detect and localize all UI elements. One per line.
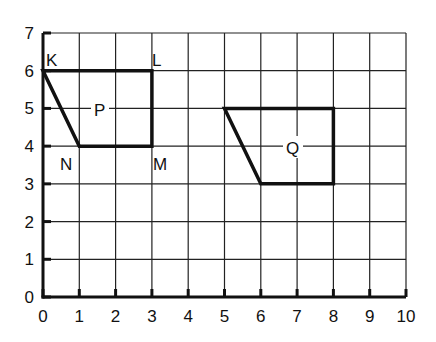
grid-lines xyxy=(43,33,406,297)
x-tick-label: 2 xyxy=(111,307,120,326)
y-tick-label: 2 xyxy=(25,213,34,232)
x-tick-label: 0 xyxy=(38,307,47,326)
vertex-label-m: M xyxy=(153,155,167,174)
shape-label-q: Q xyxy=(286,139,299,158)
x-tick-label: 4 xyxy=(183,307,192,326)
x-tick-label: 1 xyxy=(75,307,84,326)
vertex-label-k: K xyxy=(46,51,58,70)
vertex-label-l: L xyxy=(152,51,161,70)
coordinate-grid-diagram: 012345678910 01234567 K L M N P Q xyxy=(0,0,436,342)
x-tick-label: 6 xyxy=(256,307,265,326)
x-tick-label: 7 xyxy=(292,307,301,326)
y-tick-label: 4 xyxy=(25,137,34,156)
y-tick-label: 1 xyxy=(25,250,34,269)
x-tick-label: 9 xyxy=(365,307,374,326)
y-tick-label: 0 xyxy=(25,288,34,307)
shape-label-p: P xyxy=(94,101,105,120)
x-tick-label: 5 xyxy=(220,307,229,326)
y-tick-label: 3 xyxy=(25,175,34,194)
x-tick-label: 8 xyxy=(329,307,338,326)
vertex-label-n: N xyxy=(60,155,72,174)
x-axis-ticks: 012345678910 xyxy=(38,289,415,326)
axes xyxy=(42,33,407,299)
x-tick-label: 10 xyxy=(397,307,416,326)
y-tick-label: 7 xyxy=(25,24,34,43)
y-tick-label: 5 xyxy=(25,99,34,118)
y-tick-label: 6 xyxy=(25,62,34,81)
x-tick-label: 3 xyxy=(147,307,156,326)
